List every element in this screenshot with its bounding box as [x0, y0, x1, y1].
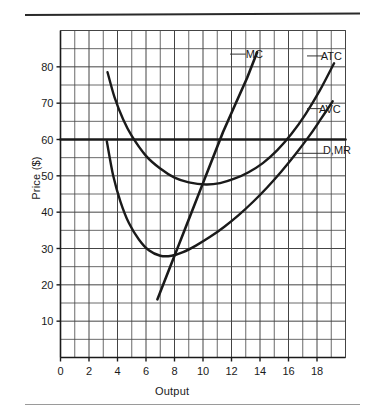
x-tick-label: 12 [225, 365, 237, 377]
bottom-divider-rule [25, 404, 360, 405]
curve-label-mc: MC [246, 48, 263, 60]
x-axis-label: Output [155, 385, 189, 397]
curve-label-dmr: D,MR [323, 144, 351, 156]
tick-labels-group: 1020304050607080024681012141618 [41, 61, 323, 377]
y-tick-label: 10 [41, 315, 53, 327]
chart-plot-area: 1020304050607080024681012141618 MCATCAVC… [0, 0, 385, 416]
y-tick-label: 70 [41, 97, 53, 109]
x-tick-label: 14 [254, 365, 266, 377]
y-tick-label: 80 [41, 61, 53, 73]
gridlines-group [61, 31, 346, 358]
axes-group [57, 31, 346, 362]
y-axis-label: Price ($) [30, 133, 42, 223]
y-tick-label: 50 [41, 170, 53, 182]
y-tick-label: 60 [41, 134, 53, 146]
y-tick-label: 40 [41, 206, 53, 218]
x-tick-label: 10 [197, 365, 209, 377]
x-tick-label: 8 [171, 365, 177, 377]
x-tick-label: 2 [86, 365, 92, 377]
x-tick-label: 4 [114, 365, 120, 377]
curve-atc [108, 63, 335, 184]
x-tick-label: 18 [311, 365, 323, 377]
curve-label-atc: ATC [321, 50, 342, 62]
y-tick-label: 30 [41, 243, 53, 255]
economics-cost-curve-figure: 1020304050607080024681012141618 MCATCAVC… [0, 0, 385, 416]
x-tick-label: 6 [143, 365, 149, 377]
x-tick-label: 0 [57, 365, 63, 377]
y-tick-label: 20 [41, 279, 53, 291]
x-tick-label: 16 [282, 365, 294, 377]
curve-label-avc: AVC [319, 103, 341, 115]
